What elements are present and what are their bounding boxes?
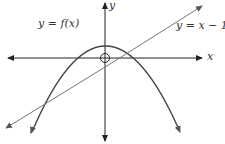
x-axis-label: x: [207, 50, 213, 63]
y-axis-label: y: [109, 0, 115, 12]
line-y-equals-x-minus-1: [110, 6, 202, 64]
line-label: y = x − 1: [176, 19, 225, 32]
line-y-equals-x-minus-1: [6, 64, 110, 128]
curve-label: y = f(x): [38, 17, 79, 30]
parabola-curve: [32, 46, 180, 132]
